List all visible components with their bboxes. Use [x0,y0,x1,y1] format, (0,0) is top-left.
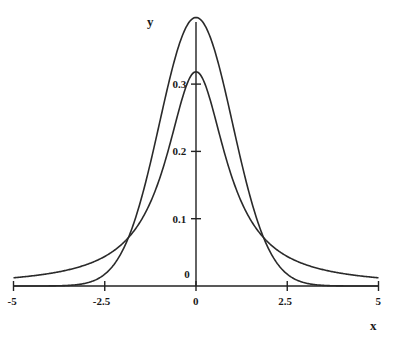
x-tick-label: 2.5 [278,295,292,307]
x-axis: -5-2.502.55 x [8,281,382,333]
y-axis: 00.10.20.3 y [147,14,201,286]
y-tick-label: 0 [184,268,190,280]
x-axis-label: x [370,318,377,333]
y-axis-label: y [147,14,154,29]
y-tick-label: 0.2 [173,145,187,157]
y-tick-label: 0.1 [173,213,187,225]
x-tick-label: -2.5 [93,295,111,307]
x-tick-label: -5 [8,295,18,307]
x-tick-label: 5 [376,295,382,307]
x-tick-label: 0 [193,295,199,307]
density-chart: -5-2.502.55 x 00.10.20.3 y [0,0,407,339]
